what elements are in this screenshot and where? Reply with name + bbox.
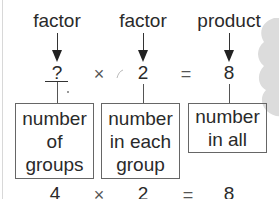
box-line: in each [102, 130, 179, 153]
box-number-in-all: number in all [188, 103, 267, 153]
box-line: group [102, 153, 179, 176]
equation-factor-2: 2 [128, 63, 158, 83]
left-border [2, 0, 3, 199]
arrow-down-icon [138, 50, 148, 62]
arrow-down-icon [224, 50, 234, 62]
solution-factor-1: 4 [40, 184, 70, 199]
connector-1 [57, 82, 58, 103]
box-line: number [16, 107, 93, 130]
box-line: of [16, 130, 93, 153]
solution-factor-2: 2 [128, 184, 158, 199]
box-line: number [102, 107, 179, 130]
equation-unknown-factor: ? [42, 63, 72, 83]
solution-equals-sign: = [176, 185, 200, 199]
equals-sign: = [174, 64, 198, 84]
box-number-of-groups: number of groups [15, 103, 94, 179]
solution-times-sign: × [87, 185, 111, 199]
connector-2 [143, 84, 144, 103]
stray-mark [116, 69, 124, 79]
times-sign: × [87, 64, 111, 84]
arrow-shaft-3 [229, 33, 230, 51]
label-factor-2: factor [103, 11, 183, 31]
arrow-shaft-1 [57, 33, 58, 51]
label-product: product [189, 11, 269, 31]
box-line: groups [16, 153, 93, 176]
dot-mark [67, 91, 69, 93]
box-line: in all [189, 128, 266, 151]
equation-product: 8 [214, 63, 244, 83]
box-line: number [189, 105, 266, 128]
connector-3 [229, 84, 230, 103]
solution-product: 8 [214, 184, 244, 199]
box-number-in-each-group: number in each group [101, 103, 180, 179]
label-factor-1: factor [17, 11, 97, 31]
arrow-shaft-2 [143, 33, 144, 51]
arrow-down-icon [52, 50, 62, 62]
